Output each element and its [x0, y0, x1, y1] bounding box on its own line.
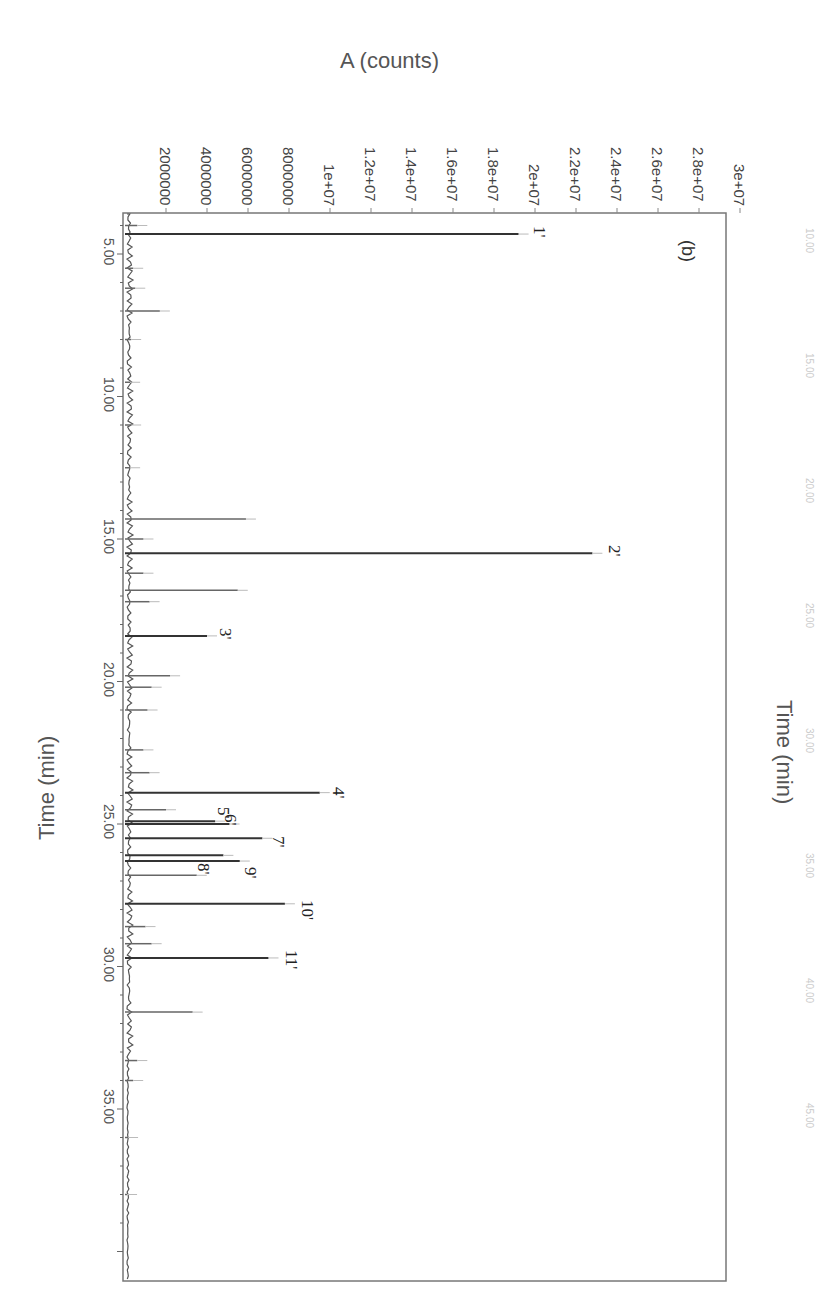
peak-label: 10'	[297, 900, 317, 920]
y-tick-label: 2e+07	[526, 164, 543, 206]
ghost-tick-label: 35.00	[804, 853, 815, 878]
x-tick-label: 20.00	[101, 662, 117, 697]
y-tick-label: 2000000	[157, 147, 174, 205]
y-tick-label: 2.2e+07	[567, 147, 584, 202]
y-tick-label: 1.2e+07	[362, 147, 379, 202]
peak-label: 3'	[215, 628, 235, 640]
peak-label: 2'	[604, 545, 624, 557]
peak-label: 8'	[193, 863, 213, 875]
y-tick-label: 2.6e+07	[649, 147, 666, 202]
panel-label: (b)	[677, 240, 698, 262]
y-tick-label: 6000000	[239, 147, 256, 205]
chromatogram-trace	[125, 214, 602, 1279]
axis-ticks	[117, 208, 740, 1252]
ghost-tick-label: 15.00	[804, 353, 815, 378]
ghost-tick-label: 10.00	[804, 228, 815, 253]
y-tick-label: 2.8e+07	[690, 147, 707, 202]
peak-label: 6'	[220, 814, 240, 826]
ghost-tick-label: 30.00	[804, 728, 815, 753]
x-tick-label: 35.00	[101, 1089, 117, 1124]
peak-label: 7'	[268, 836, 288, 848]
ghost-tick-label: 25.00	[804, 603, 815, 628]
x-tick-label: 15.00	[101, 519, 117, 554]
ghost-tick-label: 45.00	[804, 1103, 815, 1128]
plot-frame	[123, 213, 726, 1281]
y-tick-label: 1.6e+07	[444, 147, 461, 202]
x-tick-label: 5.00	[101, 238, 117, 265]
y-tick-label: 1.4e+07	[403, 147, 420, 202]
y-tick-label: 1.8e+07	[485, 147, 502, 202]
y-tick-label: 8000000	[280, 147, 297, 205]
peak-label: 9'	[240, 867, 260, 879]
y-axis-title: A (counts)	[340, 48, 439, 74]
ghost-tick-label: 40.00	[804, 978, 815, 1003]
peak-label: 1'	[529, 226, 549, 238]
y-tick-label: 2.4e+07	[608, 147, 625, 202]
x-tick-label: 25.00	[101, 804, 117, 839]
y-tick-label: 4000000	[198, 147, 215, 205]
x-axis-title: Time (min)	[34, 736, 60, 840]
y-tick-label: 1e+07	[321, 164, 338, 206]
x-tick-label: 10.00	[101, 377, 117, 412]
peak-label: 4'	[328, 787, 348, 799]
top-x-axis-title: Time (min)	[771, 700, 797, 804]
x-tick-label: 30.00	[101, 947, 117, 982]
y-tick-label: 3e+07	[731, 164, 748, 206]
ghost-tick-label: 20.00	[804, 478, 815, 503]
peak-label: 11'	[281, 950, 301, 969]
